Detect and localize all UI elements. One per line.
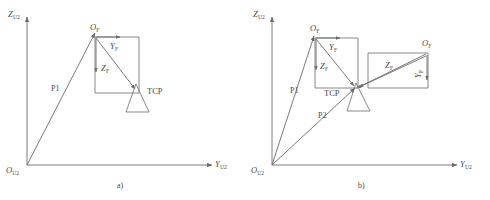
panel-b-left-axis-yf-label: YF (329, 43, 337, 52)
panel-b-tcp-label: TCP (324, 89, 340, 98)
panel-b-caption: b) (358, 182, 365, 190)
panel-b-right-axis-zf-label: ZF (385, 61, 393, 70)
panel-b-left-axis-zf-label: ZF (320, 62, 328, 71)
panel-a-axis-yf-label: YF (110, 42, 118, 51)
panel-a-y-axis-label: YU2 (215, 160, 227, 169)
panel-b-origin-label: OU2 (251, 166, 264, 175)
panel-b-tcp-triangle (347, 83, 370, 111)
panel-b-left-frame-origin-label: OF (310, 24, 319, 33)
panel-b-z-axis-label: ZU2 (253, 10, 265, 19)
panel-b-right-axis-yf-label: YF (414, 70, 423, 78)
figure-canvas: ZU2 YU2 OU2 P1 OF YF ZF TCP a) ZU2 YU2 O… (0, 0, 490, 200)
panel-b-vector-p1-label: P1 (290, 87, 298, 95)
panel-a-caption: a) (117, 182, 123, 190)
panel-a-vector-p1-label: P1 (51, 85, 59, 93)
panel-b-right-frame-origin-label: OF (422, 39, 431, 48)
panel-a-axis-zf-label: ZF (101, 64, 109, 73)
panel-a-frame-origin-label: OF (90, 23, 99, 32)
panel-a-origin-label: OU2 (6, 166, 19, 175)
panel-a-z-axis-label: ZU2 (8, 10, 20, 19)
panel-a-tcp-label: TCP (147, 87, 163, 96)
panel-b-vector-p2-label: P2 (318, 112, 326, 120)
panel-a-vector-p1 (27, 33, 95, 165)
panel-b-y-axis-label: YU2 (460, 160, 472, 169)
figure-svg (0, 0, 490, 200)
panel-a-tcp-triangle (126, 84, 149, 112)
